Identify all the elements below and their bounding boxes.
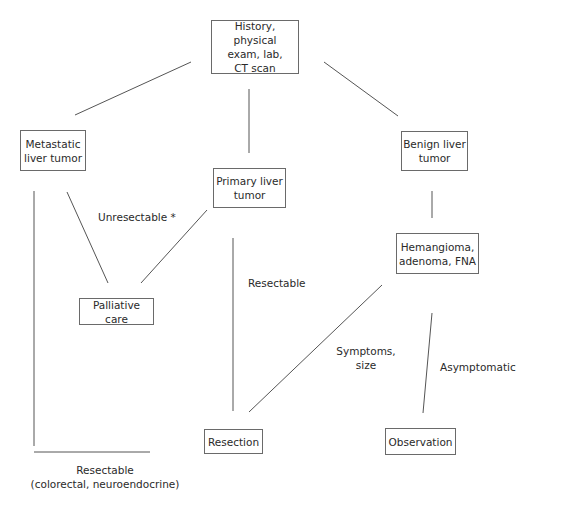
label-resectable-metastatic: Resectable (colorectal, neuroendocrine) (30, 463, 180, 491)
edge-workup-benign (324, 62, 398, 116)
label-symptoms-size: Symptoms, size (336, 344, 396, 372)
node-benign-liver-tumor: Benign liver tumor (401, 131, 468, 171)
edge-workup-metastatic (75, 62, 191, 115)
node-metastatic-liver-tumor: Metastatic liver tumor (20, 130, 86, 171)
node-primary-liver-tumor: Primary liver tumor (213, 168, 286, 208)
node-observation: Observation (385, 428, 456, 455)
label-resectable: Resectable (248, 276, 318, 290)
label-asymptomatic: Asymptomatic (440, 360, 520, 374)
edge-hemangioma-observation (423, 313, 432, 413)
node-hemangioma-adenoma-fna: Hemangioma, adenoma, FNA (396, 233, 479, 274)
node-palliative-care: Palliative care (79, 298, 154, 325)
label-unresectable: Unresectable * (98, 210, 178, 224)
node-workup: History, physical exam, lab, CT scan (211, 20, 299, 74)
node-resection: Resection (204, 429, 263, 454)
edge-metastatic-palliative (67, 192, 108, 283)
connector-lines (0, 0, 567, 508)
